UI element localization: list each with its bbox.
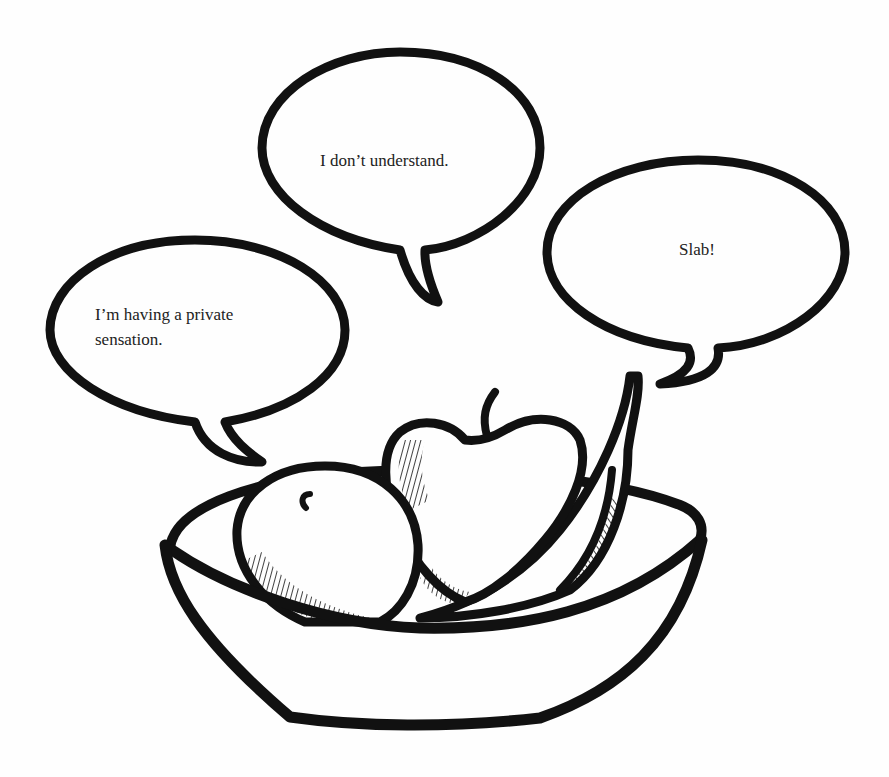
speech-text-orange: I’m having a private sensation.	[95, 302, 295, 352]
speech-bubble-right	[547, 160, 845, 384]
fruit-bowl-illustration: I’m having a private sensation. I don’t …	[0, 0, 889, 777]
bowl-front	[165, 540, 702, 725]
speech-text-apple: I don’t understand.	[320, 148, 520, 173]
speech-text-banana: Slab!	[679, 237, 759, 262]
line-drawing	[0, 0, 889, 777]
